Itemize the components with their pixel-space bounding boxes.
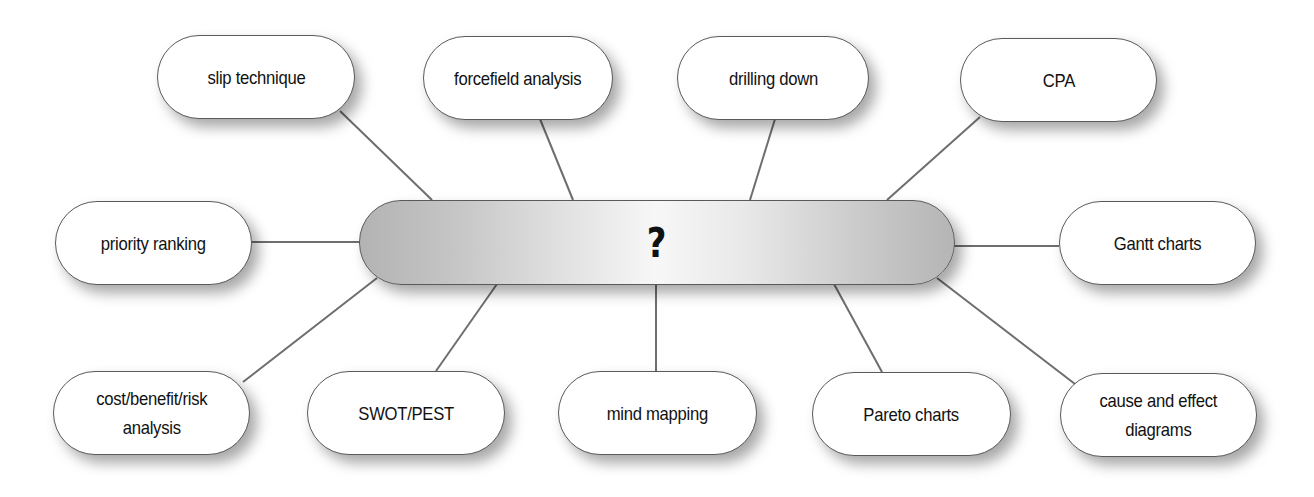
node-cost-benefit-risk-analysis[interactable]: cost/benefit/risk analysis <box>53 371 250 455</box>
connector-swot-pest <box>436 284 497 371</box>
node-forcefield-analysis[interactable]: forcefield analysis <box>423 36 613 120</box>
node-mind-mapping[interactable]: mind mapping <box>558 371 757 455</box>
connector-drilling-down <box>750 119 775 200</box>
node-slip-technique[interactable]: slip technique <box>157 35 355 119</box>
connector-pareto-charts <box>834 284 882 372</box>
connector-cost-benefit-risk-analysis <box>243 278 377 382</box>
central-topic-node[interactable]: ? <box>359 200 955 285</box>
connector-cpa <box>887 117 980 200</box>
node-label: SWOT/PEST <box>358 399 454 428</box>
node-label: cost/benefit/risk analysis <box>96 384 207 442</box>
node-label: slip technique <box>207 63 305 92</box>
node-label: drilling down <box>728 64 817 93</box>
node-gantt-charts[interactable]: Gantt charts <box>1059 201 1256 285</box>
mind-map-diagram: ? slip techniqueforcefield analysisdrill… <box>0 0 1314 497</box>
connector-cause-and-effect-diagrams <box>937 278 1075 384</box>
node-drilling-down[interactable]: drilling down <box>677 36 869 120</box>
node-label: cause and effect diagrams <box>1100 386 1218 444</box>
node-label: priority ranking <box>101 229 206 258</box>
connector-forcefield-analysis <box>540 119 573 200</box>
connector-slip-technique <box>340 111 432 200</box>
node-label: mind mapping <box>607 399 708 428</box>
node-pareto-charts[interactable]: Pareto charts <box>812 372 1011 456</box>
node-label: forcefield analysis <box>454 64 581 93</box>
node-cause-and-effect-diagrams[interactable]: cause and effect diagrams <box>1060 373 1257 457</box>
central-topic-label: ? <box>647 220 667 266</box>
node-label: Gantt charts <box>1114 229 1201 258</box>
node-label: CPA <box>1042 66 1074 95</box>
node-priority-ranking[interactable]: priority ranking <box>55 201 252 285</box>
node-swot-pest[interactable]: SWOT/PEST <box>307 371 505 455</box>
node-label: Pareto charts <box>864 400 960 429</box>
node-cpa[interactable]: CPA <box>960 38 1157 122</box>
